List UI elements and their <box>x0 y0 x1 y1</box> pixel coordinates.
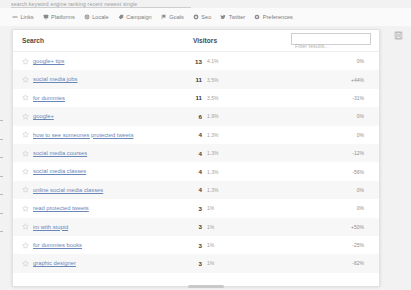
visitor-count: 11 <box>193 94 202 101</box>
bar-track <box>226 131 334 139</box>
keyword-link[interactable]: online social media classes <box>33 187 103 193</box>
star-icon[interactable] <box>22 223 29 230</box>
change-percent: -12% <box>338 150 364 156</box>
visitor-count: 4 <box>193 150 202 157</box>
visitor-count: 13 <box>193 58 202 65</box>
keyword-link[interactable]: social media jobs <box>33 76 77 82</box>
keyword-link[interactable]: how to see someones protected tweets <box>33 132 134 138</box>
change-percent: -31% <box>338 95 364 101</box>
nav-item-preferences[interactable]: Preferences <box>254 14 293 20</box>
nav-item-twitter[interactable]: Twitter <box>220 14 245 20</box>
visitor-count: 4 <box>193 168 202 175</box>
star-icon[interactable] <box>22 113 29 120</box>
table-row[interactable]: online social media classes41.3%0% <box>13 181 379 199</box>
star-icon[interactable] <box>22 76 29 83</box>
nav-item-goals[interactable]: Goals <box>161 14 184 20</box>
nav-item-label: Twitter <box>229 14 245 20</box>
share-percent: 1% <box>207 242 214 248</box>
flag-icon <box>161 14 167 20</box>
change-percent: 0% <box>338 132 364 138</box>
nav-item-label: Seo <box>201 14 211 20</box>
change-percent: +50% <box>338 224 364 230</box>
nav-item-locale[interactable]: Locale <box>84 14 109 20</box>
clipped-header-text: search keyword engine ranking recent new… <box>11 0 191 8</box>
visitor-count: 6 <box>193 113 202 120</box>
change-percent: 0% <box>338 113 364 119</box>
bar-track <box>226 149 334 157</box>
change-percent: 0% <box>338 58 364 64</box>
keyword-link[interactable]: im with stupid <box>33 224 68 230</box>
tag-icon <box>118 14 124 20</box>
visitor-count: 3 <box>193 260 202 267</box>
star-icon[interactable] <box>22 260 29 267</box>
nav-item-label: Goals <box>169 14 184 20</box>
nav-toolbar: LinksPlatformsLocaleCampaignGoalsSeoTwit… <box>0 8 411 26</box>
table-row[interactable]: for dummies books31%-25% <box>13 236 379 254</box>
keyword-link[interactable]: for dummies books <box>33 242 82 248</box>
twitter-icon <box>220 14 226 20</box>
share-percent: 1% <box>207 205 214 211</box>
nav-item-label: Preferences <box>263 14 293 20</box>
star-icon[interactable] <box>22 150 29 157</box>
search-keywords-panel: Search Visitors google+ tips134.1%0%soci… <box>12 29 380 286</box>
screenshot-root: search keyword engine ranking recent new… <box>0 0 411 290</box>
bar-track <box>226 186 334 194</box>
visitor-count: 3 <box>193 242 202 249</box>
keyword-link[interactable]: social media classes <box>33 168 86 174</box>
nav-item-label: Campaign <box>126 14 152 20</box>
bar-track <box>226 112 334 120</box>
bar-track <box>226 241 334 249</box>
star-icon[interactable] <box>22 168 29 175</box>
nav-item-seo[interactable]: Seo <box>193 14 211 20</box>
visitor-count: 11 <box>193 76 202 83</box>
keyword-link[interactable]: graphic designer <box>33 260 76 266</box>
save-icon[interactable] <box>394 31 403 40</box>
star-icon[interactable] <box>22 94 29 101</box>
star-icon[interactable] <box>22 186 29 193</box>
nav-item-links[interactable]: Links <box>12 14 34 20</box>
nav-item-platforms[interactable]: Platforms <box>43 14 75 20</box>
change-percent: -82% <box>338 260 364 266</box>
table-header: Search Visitors <box>13 30 379 52</box>
keyword-link[interactable]: google+ <box>33 113 54 119</box>
star-icon[interactable] <box>22 205 29 212</box>
table-row[interactable]: im with stupid31%+50% <box>13 218 379 236</box>
table-row[interactable]: read protected tweets31%0% <box>13 199 379 217</box>
table-row[interactable]: google+ tips134.1%0% <box>13 52 379 70</box>
share-percent: 1.3% <box>207 150 218 156</box>
gear-icon <box>254 14 260 20</box>
page-edge-ticks <box>0 120 4 250</box>
table-row[interactable]: how to see someones protected tweets41.3… <box>13 126 379 144</box>
star-icon[interactable] <box>22 58 29 65</box>
change-percent: 0% <box>338 205 364 211</box>
keyword-link[interactable]: read protected tweets <box>33 205 89 211</box>
target-icon <box>193 14 199 20</box>
table-row[interactable]: google+61.9%0% <box>13 107 379 125</box>
filter-results-input[interactable] <box>292 41 370 51</box>
star-icon[interactable] <box>22 242 29 249</box>
visitor-count: 4 <box>193 131 202 138</box>
table-row[interactable]: graphic designer31%-82% <box>13 254 379 272</box>
horizontal-scrollbar-thumb[interactable] <box>188 285 224 288</box>
filter-results-box[interactable] <box>291 33 371 45</box>
change-percent: -56% <box>338 169 364 175</box>
nav-item-campaign[interactable]: Campaign <box>118 14 152 20</box>
visitor-count: 4 <box>193 186 202 193</box>
star-icon[interactable] <box>22 131 29 138</box>
keyword-link[interactable]: social media courses <box>33 150 87 156</box>
keyword-link[interactable]: for dummies <box>33 95 65 101</box>
table-row[interactable]: for dummies113.5%-31% <box>13 89 379 107</box>
table-row[interactable]: social media classes41.3%-56% <box>13 162 379 180</box>
bar-track <box>226 57 334 65</box>
visitor-count: 3 <box>193 223 202 230</box>
table-row[interactable]: social media courses41.3%-12% <box>13 144 379 162</box>
table-row[interactable]: social media jobs113.5%+44% <box>13 70 379 88</box>
bar-track <box>226 204 334 212</box>
keyword-link[interactable]: google+ tips <box>33 58 64 64</box>
change-percent: -25% <box>338 242 364 248</box>
share-percent: 4.1% <box>207 58 218 64</box>
bar-track <box>226 168 334 176</box>
share-percent: 1% <box>207 260 214 266</box>
nav-item-label: Links <box>21 14 34 20</box>
share-percent: 3.5% <box>207 77 218 83</box>
